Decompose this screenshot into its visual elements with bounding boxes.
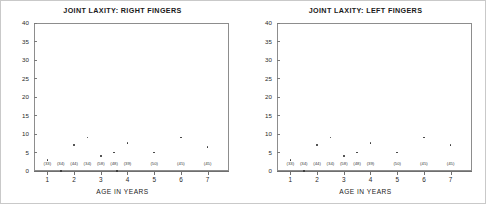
data-point — [73, 144, 75, 146]
plot-frame — [277, 23, 472, 171]
x-axis-tick-mark — [397, 171, 398, 175]
data-point — [290, 159, 292, 161]
y-axis-tick-label: 40 — [244, 19, 277, 27]
group-count-label: (45) — [411, 161, 437, 166]
y-axis-tick-label: 5 — [1, 149, 34, 157]
data-point — [100, 155, 102, 157]
data-point — [303, 170, 305, 172]
y-axis-tick-label: 20 — [244, 93, 277, 101]
chart-title: JOINT LAXITY: LEFT FINGERS — [244, 6, 486, 15]
data-point — [343, 155, 345, 157]
x-axis-tick-mark — [424, 171, 425, 175]
x-axis-tick-label: 6 — [171, 176, 191, 183]
chart-title: JOINT LAXITY: RIGHT FINGERS — [1, 6, 244, 15]
x-axis-tick-mark — [127, 171, 128, 175]
data-point — [116, 170, 118, 172]
y-axis-tick-label: 35 — [1, 38, 34, 46]
x-axis-tick-label: 3 — [91, 176, 111, 183]
y-axis-tick-mark — [34, 78, 37, 79]
y-axis-tick-label: 15 — [1, 112, 34, 120]
x-axis-tick-mark — [74, 171, 75, 175]
x-axis-tick-label: 4 — [360, 176, 380, 183]
y-axis-tick-mark — [277, 152, 280, 153]
x-axis-tick-mark — [101, 171, 102, 175]
y-axis-tick-label: 25 — [244, 75, 277, 83]
x-axis-tick-label: 6 — [414, 176, 434, 183]
y-axis-tick-label: 20 — [1, 93, 34, 101]
x-axis-title: AGE IN YEARS — [1, 188, 244, 195]
y-axis-tick-label: 0 — [1, 167, 34, 175]
y-axis-tick-mark — [34, 134, 37, 135]
y-axis-tick-mark — [277, 115, 280, 116]
x-axis-tick-label: 1 — [280, 176, 300, 183]
x-axis-tick-label: 2 — [307, 176, 327, 183]
x-axis-tick-mark — [344, 171, 345, 175]
x-axis-tick-mark — [317, 171, 318, 175]
y-axis-tick-mark — [34, 97, 37, 98]
x-axis-tick-mark — [451, 171, 452, 175]
group-count-label: (50) — [384, 161, 410, 166]
group-count-label: (39) — [357, 161, 383, 166]
x-axis-tick-mark — [181, 171, 182, 175]
y-axis-tick-label: 25 — [1, 75, 34, 83]
y-axis-tick-mark — [277, 23, 280, 24]
y-axis-tick-mark — [277, 134, 280, 135]
y-axis-tick-mark — [34, 23, 37, 24]
x-axis-tick-label: 1 — [37, 176, 57, 183]
data-point — [47, 159, 49, 161]
x-axis-line — [34, 171, 229, 172]
y-axis-tick-label: 10 — [244, 130, 277, 138]
group-count-label: (45) — [438, 161, 464, 166]
x-axis-tick-label: 5 — [144, 176, 164, 183]
y-axis-tick-label: 5 — [244, 149, 277, 157]
y-axis-tick-mark — [277, 41, 280, 42]
y-axis-tick-label: 35 — [244, 38, 277, 46]
y-axis-tick-label: 0 — [244, 167, 277, 175]
y-axis-tick-label: 30 — [1, 56, 34, 64]
x-axis-tick-mark — [208, 171, 209, 175]
y-axis-tick-mark — [277, 60, 280, 61]
plot-frame — [34, 23, 229, 171]
data-point — [316, 144, 318, 146]
x-axis-tick-label: 7 — [198, 176, 218, 183]
group-count-label: (39) — [114, 161, 140, 166]
group-count-label: (45) — [195, 161, 221, 166]
y-axis-tick-mark — [277, 97, 280, 98]
chart-panel-left-fingers: JOINT LAXITY: LEFT FINGERS 4035302520151… — [244, 1, 486, 204]
x-axis-tick-mark — [47, 171, 48, 175]
group-count-label: (50) — [141, 161, 167, 166]
group-count-label: (45) — [168, 161, 194, 166]
x-axis-tick-label: 2 — [64, 176, 84, 183]
x-axis-tick-mark — [370, 171, 371, 175]
y-axis-tick-mark — [34, 41, 37, 42]
y-axis-tick-label: 40 — [1, 19, 34, 27]
x-axis-tick-mark — [154, 171, 155, 175]
y-axis-tick-label: 10 — [1, 130, 34, 138]
x-axis-line — [277, 171, 472, 172]
y-axis-tick-mark — [34, 152, 37, 153]
y-axis-tick-label: 30 — [244, 56, 277, 64]
chart-panel-right-fingers: JOINT LAXITY: RIGHT FINGERS 403530252015… — [1, 1, 244, 204]
x-axis-tick-label: 4 — [117, 176, 137, 183]
x-axis-tick-label: 7 — [441, 176, 461, 183]
data-point — [60, 170, 62, 172]
y-axis-tick-label: 15 — [244, 112, 277, 120]
x-axis-title: AGE IN YEARS — [244, 188, 486, 195]
x-axis-tick-mark — [290, 171, 291, 175]
y-axis-tick-mark — [34, 60, 37, 61]
y-axis-tick-mark — [34, 115, 37, 116]
figure-canvas: JOINT LAXITY: RIGHT FINGERS 403530252015… — [0, 0, 486, 204]
x-axis-tick-label: 3 — [334, 176, 354, 183]
x-axis-tick-label: 5 — [387, 176, 407, 183]
y-axis-tick-mark — [277, 78, 280, 79]
